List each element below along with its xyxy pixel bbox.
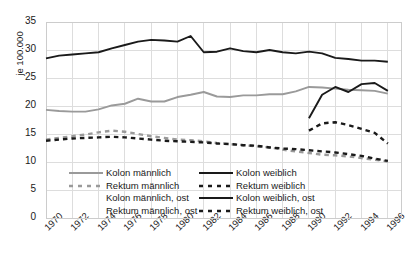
- series-line: [46, 36, 388, 62]
- legend-item-label: Rektum weiblich, ost: [236, 205, 323, 216]
- legend-item-label: Rektum männlich, ost: [106, 205, 197, 216]
- legend-line-sample: [69, 181, 103, 191]
- legend-item-label: Kolon männlich, ost: [106, 192, 189, 203]
- legend-item-label: Kolon weiblich: [236, 167, 297, 178]
- legend-item-label: Kolon männlich: [106, 167, 171, 178]
- series-line: [46, 131, 388, 162]
- series-line: [309, 122, 388, 143]
- legend-line-sample: [199, 206, 233, 216]
- legend-line-sample: [199, 193, 233, 203]
- legend-line-sample: [69, 168, 103, 178]
- legend-line-sample: [199, 168, 233, 178]
- legend-item-label: Kolon weiblich, ost: [236, 192, 315, 203]
- series-line: [46, 137, 388, 161]
- plot-area: [0, 0, 416, 267]
- chart-container: je 100.000 05101520253035 19701972197419…: [0, 0, 416, 267]
- legend-item-label: Rektum weiblich: [236, 180, 305, 191]
- legend-item-label: Rektum männlich: [106, 180, 179, 191]
- series-line: [46, 87, 388, 112]
- legend-line-sample: [199, 181, 233, 191]
